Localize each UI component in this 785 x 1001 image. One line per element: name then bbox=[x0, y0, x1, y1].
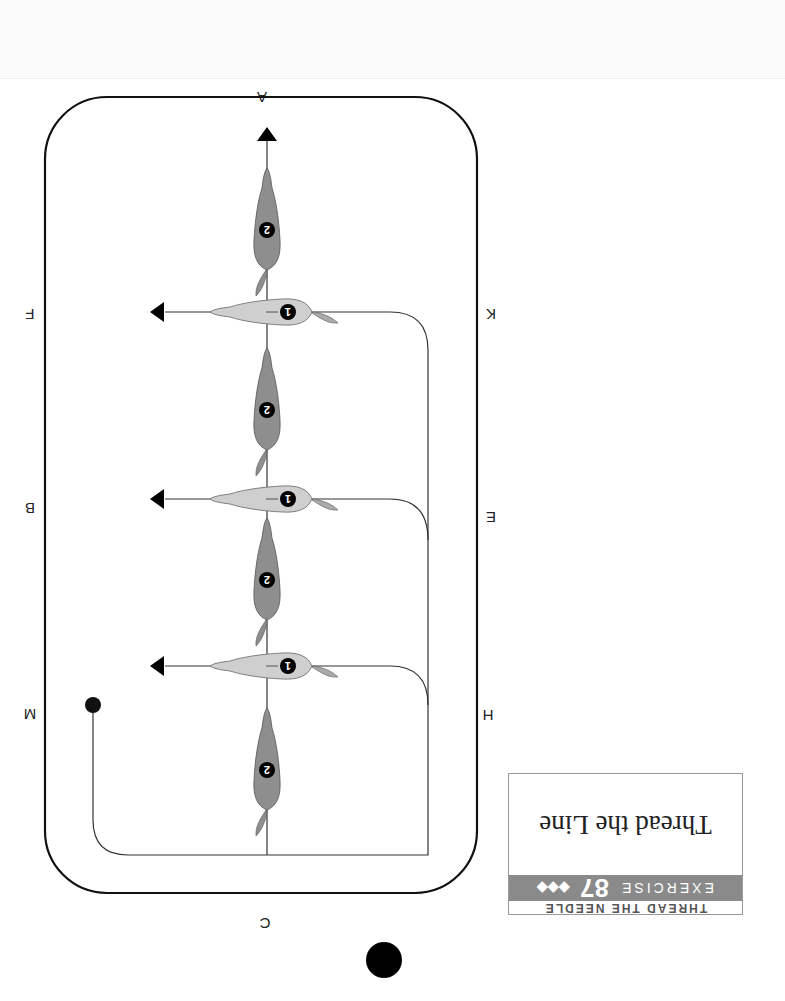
exercise-category: THREAD THE NEEDLE bbox=[509, 901, 742, 915]
exercise-band: EXERCISE 87 ◆◆◆ bbox=[509, 875, 742, 901]
arena-letter-h: H bbox=[483, 707, 494, 724]
arrow-left-icon bbox=[150, 656, 164, 676]
arrow-left-icon bbox=[150, 489, 164, 509]
start-dot-icon bbox=[85, 697, 101, 713]
arena-letter-b: B bbox=[25, 500, 35, 517]
exercise-label: EXERCISE bbox=[619, 880, 714, 896]
track-e bbox=[330, 499, 428, 540]
return-path-m bbox=[93, 705, 267, 855]
exercise-number: 87 bbox=[580, 873, 609, 904]
track-k bbox=[267, 312, 428, 855]
page: 2 1 bbox=[0, 0, 785, 1001]
arena-letter-k: K bbox=[486, 306, 496, 323]
exercise-title: Thread the Line bbox=[509, 774, 742, 875]
arrow-left-icon bbox=[150, 302, 164, 322]
arrow-head-icon bbox=[257, 127, 277, 141]
arena-letter-c: C bbox=[259, 915, 270, 932]
difficulty-diamonds-icon: ◆◆◆ bbox=[537, 879, 570, 897]
arena-letter-m: M bbox=[24, 706, 37, 723]
arena-letter-f: F bbox=[25, 306, 34, 323]
track-h bbox=[330, 666, 428, 705]
page-tab-marker-icon bbox=[366, 942, 402, 978]
exercise-card: Thread the Line EXERCISE 87 ◆◆◆ THREAD T… bbox=[508, 773, 743, 915]
arena-letter-e: E bbox=[486, 509, 496, 526]
arena-letter-a: A bbox=[257, 89, 267, 106]
